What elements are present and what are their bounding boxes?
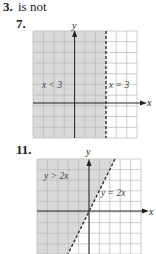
region-label-11: y > 2x (43, 171, 69, 181)
y-axis-label: y (71, 20, 77, 31)
line-label-7: x = 3 (108, 80, 129, 90)
graph-11: x y y > 2x y = 2x (30, 145, 156, 254)
x-axis-arrow-icon (142, 209, 149, 214)
answer-3-text: is not (18, 0, 47, 15)
region-label-7: x < 3 (41, 80, 62, 90)
graph-7: x y x < 3 x = 3 (30, 20, 156, 140)
problem-number-3: 3. (3, 0, 13, 15)
x-axis-label: x (146, 97, 152, 108)
y-axis-label: y (85, 146, 91, 157)
line-label-11: y = 2x (100, 188, 126, 198)
x-axis-label: x (148, 206, 154, 217)
problem-number-7: 7. (16, 16, 26, 32)
x-axis-arrow-icon (140, 101, 147, 106)
